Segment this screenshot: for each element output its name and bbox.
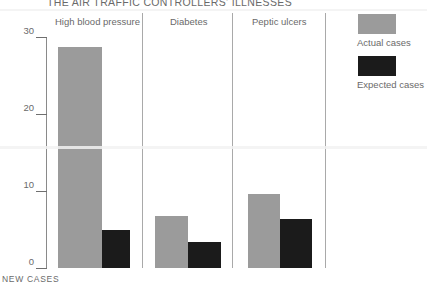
y-tick-label-0: 0 <box>8 257 34 267</box>
scan-artifact-band <box>0 9 427 11</box>
group-separator-1 <box>142 13 143 268</box>
y-axis-line <box>46 37 47 269</box>
y-tick-mark-30 <box>36 37 47 38</box>
group-label-peptic-ulcers: Peptic ulcers <box>252 16 306 27</box>
bar-expected-peptic-ulcers <box>280 219 312 268</box>
legend-swatch-expected-cases <box>358 56 396 76</box>
bar-chart: THE AIR TRAFFIC CONTROLLERS' ILLNESSES 3… <box>0 0 427 288</box>
y-tick-label-20: 20 <box>8 103 34 113</box>
chart-title: THE AIR TRAFFIC CONTROLLERS' ILLNESSES <box>47 0 387 9</box>
bar-expected-high-blood-pressure <box>102 230 130 268</box>
group-label-diabetes: Diabetes <box>170 16 208 27</box>
y-tick-label-30: 30 <box>8 26 34 36</box>
bar-actual-peptic-ulcers <box>248 194 280 268</box>
legend-label-actual-cases: Actual cases <box>357 37 411 48</box>
bar-actual-high-blood-pressure <box>58 47 102 268</box>
legend-label-expected-cases: Expected cases <box>357 79 424 90</box>
y-tick-mark-10 <box>36 191 47 192</box>
y-tick-mark-20 <box>36 114 47 115</box>
bar-expected-diabetes <box>188 242 221 268</box>
y-tick-mark-0 <box>36 268 47 269</box>
y-tick-label-10: 10 <box>8 180 34 190</box>
group-separator-3 <box>325 13 326 268</box>
bar-actual-diabetes <box>155 216 188 268</box>
legend-swatch-actual-cases <box>358 14 396 34</box>
group-label-high-blood-pressure: High blood pressure <box>55 16 140 27</box>
y-axis-label: NEW CASES <box>2 274 59 284</box>
group-separator-2 <box>232 13 233 268</box>
